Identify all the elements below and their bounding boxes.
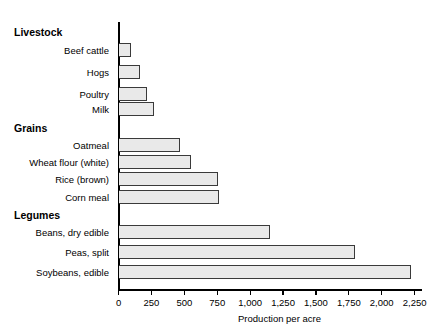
bar-poultry [119,87,147,101]
bar-wheat-flour [119,155,191,169]
bar-corn-meal [119,190,219,204]
x-tick-750 [217,290,218,295]
category-label-rice-brown: Rice (brown) [0,174,109,185]
x-tick-label-1000: 1,000 [238,297,262,308]
x-tick-label-2000: 2,000 [370,297,394,308]
category-label-column: Livestock Beef cattle Hogs Poultry Milk … [0,0,113,300]
group-heading-grains: Grains [14,122,47,134]
x-tick-label-0: 0 [116,297,121,308]
x-axis-line [118,289,422,291]
x-tick-500 [184,290,185,295]
x-tick-1250 [282,290,283,295]
category-label-hogs: Hogs [0,67,109,78]
category-label-soybeans-edible: Soybeans, edible [0,267,109,278]
x-tick-2000 [381,290,382,295]
x-tick-label-250: 250 [144,297,160,308]
category-label-wheat-flour: Wheat flour (white) [0,157,109,168]
x-tick-label-1750: 1,750 [337,297,361,308]
x-tick-2250 [414,290,415,295]
bar-oatmeal [119,138,180,152]
category-label-oatmeal: Oatmeal [0,140,109,151]
bar-rice-brown [119,172,218,186]
x-tick-label-750: 750 [209,297,225,308]
category-label-milk: Milk [0,104,109,115]
bar-beans-dry-edible [119,225,270,239]
category-label-corn-meal: Corn meal [0,192,109,203]
x-tick-label-500: 500 [176,297,192,308]
x-tick-label-1250: 1,250 [271,297,295,308]
x-tick-1500 [315,290,316,295]
x-tick-1750 [348,290,349,295]
x-tick-label-1500: 1,500 [304,297,328,308]
x-tick-250 [151,290,152,295]
production-per-acre-bar-chart: Livestock Beef cattle Hogs Poultry Milk … [0,0,446,331]
x-tick-1000 [250,290,251,295]
plot-area: 02505007501,0001,2501,5001,7502,0002,250… [113,0,446,331]
category-label-beef-cattle: Beef cattle [0,45,109,56]
bar-milk [119,102,154,116]
group-heading-legumes: Legumes [14,209,60,221]
category-label-beans-dry-edible: Beans, dry edible [0,227,109,238]
category-label-poultry: Poultry [0,89,109,100]
x-axis-title: Production per acre [113,313,446,324]
x-tick-label-2250: 2,250 [403,297,427,308]
category-label-peas-split: Peas, split [0,247,109,258]
group-heading-livestock: Livestock [14,26,62,38]
bar-peas-split [119,245,355,259]
x-tick-0 [118,290,119,295]
bar-beef-cattle [119,43,131,57]
bar-soybeans-edible [119,265,411,279]
bar-hogs [119,65,140,79]
